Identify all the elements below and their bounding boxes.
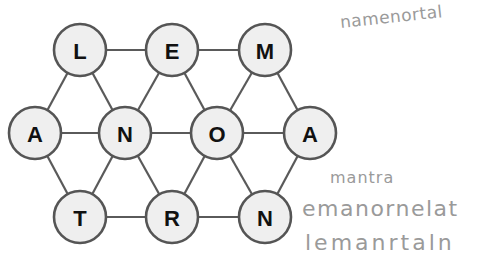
- node-letter: L: [73, 39, 86, 64]
- letter-node-m: M: [239, 24, 291, 76]
- node-letter: M: [256, 39, 274, 64]
- letter-node-a: A: [284, 107, 336, 159]
- letter-node-o: O: [191, 107, 243, 159]
- handwritten-note-lemanrtaln: lemanrtaln: [305, 230, 455, 255]
- letter-node-t: T: [54, 191, 106, 243]
- node-letter: N: [257, 206, 273, 231]
- node-letter: A: [27, 122, 43, 147]
- letter-node-n: N: [239, 191, 291, 243]
- letter-node-e: E: [146, 24, 198, 76]
- node-letter: R: [164, 206, 180, 231]
- node-letter: A: [302, 122, 318, 147]
- letter-node-r: R: [146, 191, 198, 243]
- letter-node-l: L: [54, 24, 106, 76]
- handwritten-note-mantra: mantra: [330, 168, 394, 187]
- node-letter: E: [165, 39, 180, 64]
- handwritten-note-emanornelat: emanornelat: [302, 196, 459, 221]
- letter-node-a: A: [9, 107, 61, 159]
- node-letter: T: [73, 206, 87, 231]
- node-letter: O: [208, 122, 225, 147]
- node-letter: N: [117, 122, 133, 147]
- letter-node-n: N: [99, 107, 151, 159]
